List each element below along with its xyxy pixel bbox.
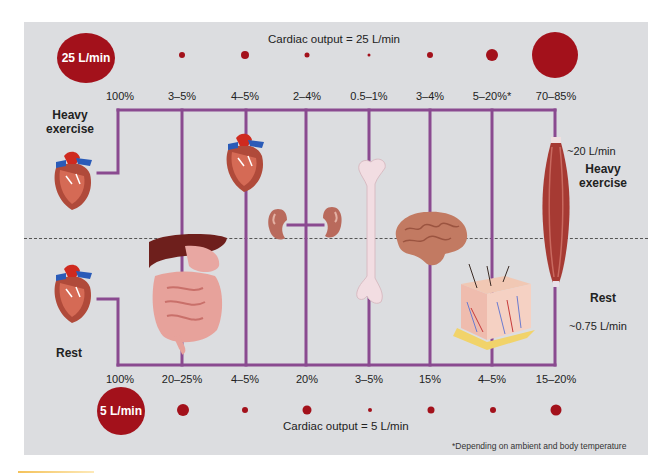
pct-rest-bone: 3–5% <box>355 373 383 385</box>
flow-dot-rest-digestive <box>177 404 189 416</box>
pct-rest-muscle: 15–20% <box>536 373 576 385</box>
heart-icon <box>222 132 268 194</box>
flow-dot-rest-heart <box>242 407 248 413</box>
flow-dot-rest-kidneys <box>303 406 312 415</box>
pct-rest-total: 100% <box>106 373 134 385</box>
cardiac-output-rest-title: Cardiac output = 5 L/min <box>283 420 409 432</box>
pct-rest-heart: 4–5% <box>231 373 259 385</box>
muscle-flow-exercise: ~20 L/min <box>567 145 616 157</box>
flow-dot-rest-muscle <box>551 405 562 416</box>
flow-dot-rest-bone <box>368 408 372 412</box>
left-heavy-exercise-label: Heavy exercise <box>40 108 100 136</box>
kidneys-icon <box>321 206 343 240</box>
pct-rest-kidneys: 20% <box>296 373 318 385</box>
right-rest-label: Rest <box>585 291 621 305</box>
total-flow-rest-dot: 5 L/min <box>97 387 145 435</box>
heart-icon <box>50 263 96 325</box>
footnote: *Depending on ambient and body temperatu… <box>452 441 626 451</box>
pct-rest-digestive: 20–25% <box>162 373 202 385</box>
digestive-icon <box>145 232 235 352</box>
muscle-icon <box>538 137 574 287</box>
kidneys-icon <box>267 208 289 242</box>
left-rest-label: Rest <box>45 346 93 360</box>
skin-icon <box>447 262 541 352</box>
heart-icon <box>50 150 96 212</box>
total-flow-rest-label: 5 L/min <box>100 404 142 418</box>
flow-dot-rest-skin <box>490 407 496 413</box>
pct-rest-brain: 15% <box>419 373 441 385</box>
pct-rest-skin: 4–5% <box>478 373 506 385</box>
right-heavy-exercise-label: Heavy exercise <box>573 162 633 190</box>
brain-icon <box>391 210 471 268</box>
flow-dot-rest-brain <box>428 407 435 414</box>
bone-icon <box>355 156 389 306</box>
muscle-flow-rest: ~0.75 L/min <box>569 320 627 332</box>
